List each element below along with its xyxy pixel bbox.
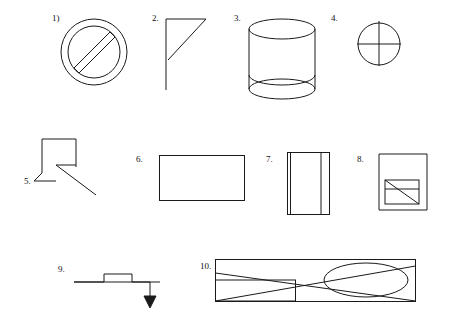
figure-5-zigzag-stair-with-diagonal [32, 137, 100, 199]
worksheet-canvas: 1) 2. 3. 4. [0, 0, 460, 322]
figure-7-rectangular-prism-upright [286, 151, 332, 217]
figure-4-label: 4. [331, 13, 338, 23]
figure-8-label: 8. [357, 154, 364, 164]
figure-6-label: 6. [136, 154, 143, 164]
figure-7-label: 7. [266, 154, 273, 164]
figure-2-right-triangle-with-tail [164, 16, 212, 94]
figure-10-long-rectangle-with-ellipse-and-diagonals [214, 258, 418, 306]
figure-10-label: 10. [200, 261, 211, 271]
figure-6-rectangle [158, 154, 246, 202]
figure-8-nested-squares-with-diagonal [377, 152, 435, 214]
figure-3-label: 3. [234, 13, 241, 23]
figure-9-stepped-line-with-down-arrow [72, 268, 164, 310]
figure-1-circle-with-diagonal-bar [58, 16, 130, 88]
figure-3-cylinder [246, 17, 318, 103]
figure-9-label: 9. [58, 264, 65, 274]
figure-4-circle-with-crosshair [355, 20, 403, 68]
figure-5-label: 5. [24, 176, 31, 186]
figure-2-label: 2. [152, 13, 159, 23]
